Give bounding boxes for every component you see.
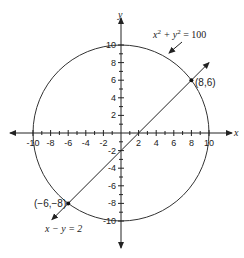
svg-text:2: 2: [136, 138, 141, 148]
svg-text:-6: -6: [64, 138, 72, 148]
svg-text:-10: -10: [26, 138, 39, 148]
svg-text:6: 6: [111, 75, 116, 85]
circle-equation-label: x2 + y2 = 100: [152, 28, 206, 40]
coordinate-plane: -10 -8 -6 -4 -2 2 4 6 8 10 10 8 6 4 2 -2…: [0, 0, 244, 258]
svg-text:-4: -4: [82, 138, 90, 148]
circle-label-pointer: [169, 42, 182, 53]
svg-text:-2: -2: [108, 146, 116, 156]
point-label-8-6: (8,6): [195, 77, 216, 88]
y-axis-label: y: [117, 9, 123, 20]
point-8-6: [189, 78, 193, 82]
svg-text:10: 10: [204, 138, 214, 148]
x-axis-label: x: [233, 127, 239, 138]
svg-text:-10: -10: [103, 216, 116, 226]
svg-text:-4: -4: [108, 163, 116, 173]
svg-text:4: 4: [111, 93, 116, 103]
svg-text:-8: -8: [47, 138, 55, 148]
svg-text:6: 6: [171, 138, 176, 148]
point-neg6-neg8: [66, 201, 70, 205]
svg-text:4: 4: [154, 138, 159, 148]
svg-text:-2: -2: [99, 138, 107, 148]
svg-text:10: 10: [106, 40, 116, 50]
svg-text:8: 8: [111, 58, 116, 68]
x-tick-labels: -10 -8 -6 -4 -2 2 4 6 8 10: [26, 138, 214, 148]
svg-text:2: 2: [111, 110, 116, 120]
svg-text:-8: -8: [108, 198, 116, 208]
line-equation-label: x − y = 2: [44, 223, 82, 234]
svg-text:-6: -6: [108, 181, 116, 191]
svg-text:8: 8: [189, 138, 194, 148]
point-label-neg6-neg8: (−6,−8): [34, 198, 66, 209]
